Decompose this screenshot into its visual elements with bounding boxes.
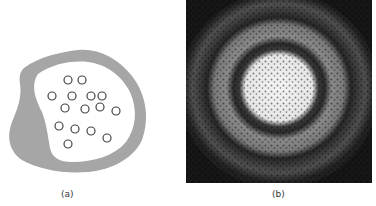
speckle-ring-pattern [186,0,372,183]
caption-b: (b) [272,189,285,199]
blob-with-circles-illustration [0,0,186,206]
panel-a-diagram [0,0,186,206]
caption-a: (a) [61,189,74,199]
panel-b-image [186,0,372,183]
